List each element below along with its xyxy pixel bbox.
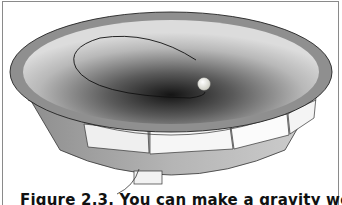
tab — [134, 171, 162, 184]
gravity-well-illustration — [0, 0, 342, 205]
funnel-surface — [23, 20, 319, 124]
ball — [198, 78, 211, 91]
figure-caption: Figure 2.3. You can make a gravity well … — [20, 191, 342, 205]
